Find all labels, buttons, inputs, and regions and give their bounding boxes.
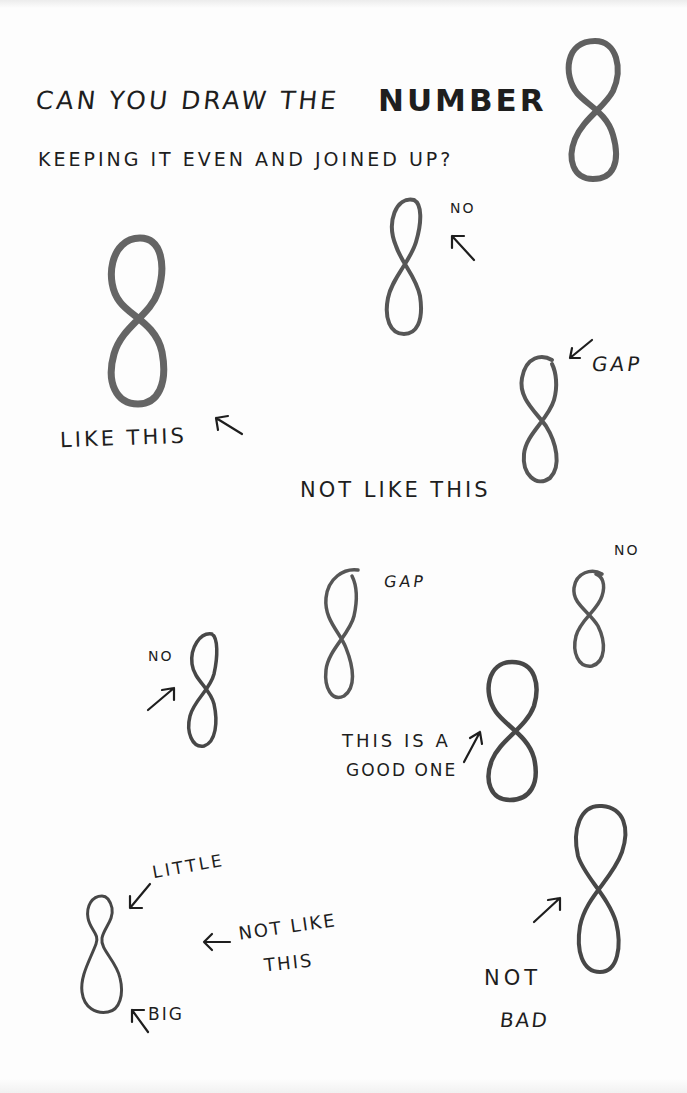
bad-label: BAD — [499, 1008, 550, 1032]
not-like-this-arrow-icon — [200, 930, 232, 952]
gap-label-top: GAP — [590, 352, 644, 376]
no-arrow-icon-left — [144, 682, 180, 714]
not-label: NOT — [484, 966, 541, 990]
narrow-top-eight-drawing — [376, 192, 436, 342]
little-arrow-icon — [124, 880, 154, 914]
gap-eight-drawing — [512, 350, 572, 490]
this-label: THIS — [263, 949, 314, 975]
small-right-eight-drawing — [568, 564, 618, 674]
not-bad-arrow-icon — [530, 892, 566, 926]
no-arrow-icon-top — [446, 230, 480, 264]
like-this-arrow-icon — [210, 412, 246, 438]
little-label: LITTLE — [151, 850, 227, 882]
title-line-2: KEEPING IT EVEN AND JOINED UP? — [38, 148, 453, 170]
gap-arrow-icon-top — [564, 336, 596, 364]
not-like-label: NOT LIKE — [237, 909, 338, 944]
paper-bottom-edge — [0, 1079, 687, 1093]
small-no-eight-drawing — [182, 628, 232, 754]
paper-top-edge — [0, 0, 687, 8]
like-this-label: LIKE THIS — [60, 424, 188, 452]
good-one-arrow-icon — [460, 726, 486, 766]
no-label-right: NO — [614, 542, 640, 558]
hero-eight-drawing — [555, 35, 635, 185]
title-line-1a: CAN YOU DRAW THE — [34, 86, 340, 115]
no-label-left: NO — [148, 648, 174, 664]
no-label-top: NO — [450, 200, 476, 216]
not-like-this-caption: NOT LIKE THIS — [300, 478, 491, 502]
this-is-a-label: THIS IS A — [342, 730, 451, 751]
title-line-1b: NUMBER — [378, 82, 547, 118]
not-bad-eight-drawing — [560, 800, 640, 980]
good-one-label: GOOD ONE — [346, 760, 457, 780]
gap-middle-eight-drawing — [316, 564, 372, 704]
big-arrow-icon — [126, 1002, 154, 1036]
good-eight-drawing — [92, 232, 182, 412]
gap-label-middle: GAP — [383, 572, 428, 591]
